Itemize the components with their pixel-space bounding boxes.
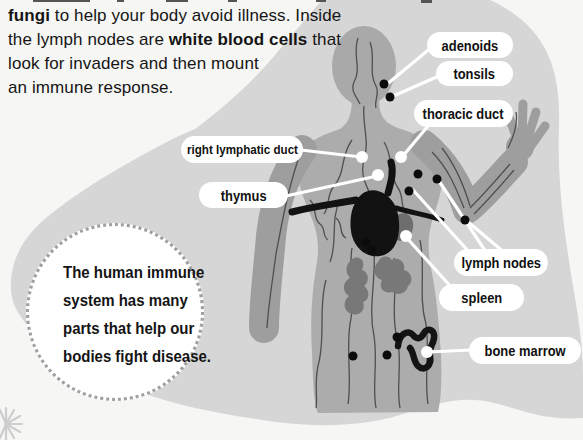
intro-line: look for invaders and then mount — [8, 52, 348, 76]
label-right-lymphatic-duct: right lymphatic duct — [181, 136, 303, 163]
book-page: fungi to help your body avoid illness. I… — [0, 0, 583, 440]
label-tonsils: tonsils — [436, 61, 513, 86]
bone-marrow-leader-line — [428, 350, 472, 352]
intro-line: fungi to help your body avoid illness. I… — [8, 4, 348, 28]
intro-paragraph: fungi to help your body avoid illness. I… — [8, 4, 348, 100]
label-thymus: thymus — [199, 182, 288, 208]
label-lymph-nodes: lymph nodes — [454, 249, 548, 276]
intro-line: the lymph nodes are white blood cells th… — [8, 28, 348, 52]
label-thoracic-duct: thoracic duct — [414, 100, 513, 127]
summary-callout-text: The human immune system has many parts t… — [63, 259, 231, 371]
label-adenoids: adenoids — [427, 32, 513, 58]
summary-callout-circle: The human immune system has many parts t… — [26, 223, 204, 401]
label-bone-marrow: bone marrow — [469, 337, 581, 364]
starburst-icon — [0, 408, 22, 440]
intro-line: an immune response. — [8, 76, 348, 100]
label-spleen: spleen — [439, 284, 524, 311]
